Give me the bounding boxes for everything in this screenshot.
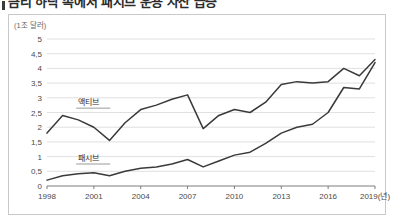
x-axis-tick-label: 2019(년) — [360, 191, 390, 201]
line-chart-svg: 00,511,522,533,544,55 199820012004200720… — [0, 0, 394, 223]
series-label: 패시브 — [78, 153, 99, 163]
y-axis-ticks-group: 00,511,522,533,544,55 — [31, 35, 43, 191]
x-axis-ticks-group: 19982001200420072010201320162019(년) — [38, 186, 390, 201]
y-axis-tick-label: 5 — [38, 35, 43, 44]
x-axis-tick-label: 2001 — [85, 192, 103, 201]
series-label: 액티브 — [78, 97, 99, 107]
x-axis-tick-label: 2010 — [226, 192, 244, 201]
y-axis-tick-label: 3,5 — [31, 79, 43, 88]
x-axis-tick-label: 2016 — [319, 192, 337, 201]
series-labels-group: 액티브패시브 — [76, 97, 110, 164]
x-axis-tick-label: 2007 — [179, 192, 197, 201]
y-axis-tick-label: 0,5 — [31, 167, 43, 176]
y-axis-tick-label: 1 — [38, 153, 43, 162]
y-axis-tick-label: 4 — [38, 64, 43, 73]
y-axis-tick-label: 2,5 — [31, 109, 43, 118]
x-axis-tick-label: 2004 — [132, 192, 150, 201]
y-axis-tick-label: 0 — [38, 182, 43, 191]
y-axis-tick-label: 2 — [38, 123, 43, 132]
y-axis-tick-label: 3 — [38, 94, 43, 103]
chart-plot-area: 00,511,522,533,544,55 199820012004200720… — [0, 0, 394, 223]
x-axis-tick-label: 2013 — [272, 192, 290, 201]
x-axis-tick-label: 1998 — [38, 192, 56, 201]
y-axis-tick-label: 4,5 — [31, 50, 43, 59]
y-axis-tick-label: 1,5 — [31, 138, 43, 147]
